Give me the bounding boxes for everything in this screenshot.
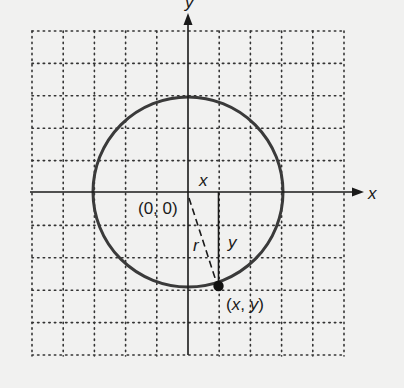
vertical-leg-label: y (228, 234, 237, 251)
x-axis-label: x (368, 185, 377, 202)
point-on-circle (213, 281, 223, 291)
horizontal-leg-label: x (199, 172, 208, 189)
y-axis-arrow-icon (184, 13, 193, 25)
origin-label: (0, 0) (138, 200, 178, 217)
radius-label: r (193, 237, 199, 254)
x-axis-arrow-icon (352, 188, 364, 197)
point-label: (x, y) (226, 296, 264, 313)
y-axis-label: y (185, 0, 194, 11)
coordinate-plane-diagram (0, 0, 404, 388)
